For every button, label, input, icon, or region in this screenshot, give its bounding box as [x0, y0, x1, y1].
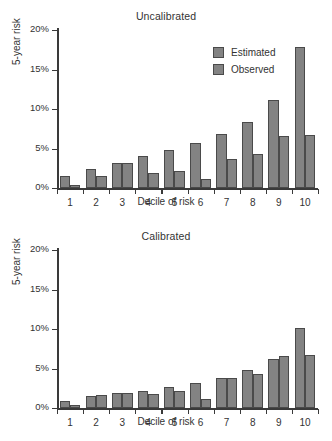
y-axis-tick: 5% [52, 369, 57, 370]
bar [253, 374, 263, 408]
legend-swatch-icon [213, 47, 224, 58]
y-axis-tick: 15% [52, 70, 57, 71]
bar [138, 391, 148, 408]
y-axis-tick: 20% [52, 30, 57, 31]
x-axis-tick [318, 409, 319, 414]
x-axis-tick [161, 189, 162, 194]
legend-item: Observed [213, 61, 275, 78]
bar [148, 394, 158, 408]
x-axis-tick [266, 409, 267, 414]
bar [164, 150, 174, 188]
legend-swatch-icon [213, 64, 224, 75]
bar [216, 134, 226, 188]
y-axis-tick: 15% [52, 290, 57, 291]
y-axis-tick: 10% [52, 329, 57, 330]
bar [122, 163, 132, 188]
bar [295, 328, 305, 408]
y-axis-tick: 20% [52, 250, 57, 251]
bar [279, 356, 289, 408]
x-axis-tick [292, 189, 293, 194]
bar [60, 401, 70, 408]
bar [174, 391, 184, 408]
x-axis-tick [292, 409, 293, 414]
bar [70, 185, 80, 188]
chart-title-calibrated: Calibrated [0, 230, 332, 242]
bar [122, 393, 132, 408]
y-axis-tick: 10% [52, 109, 57, 110]
bar [279, 136, 289, 188]
y-axis-tick-label: 5% [35, 362, 49, 373]
y-axis-tick-label: 10% [30, 102, 49, 113]
bar [305, 355, 315, 408]
bar [138, 156, 148, 188]
bar [190, 143, 200, 188]
bar [96, 395, 106, 408]
y-axis-tick-label: 0% [35, 401, 49, 412]
bar [227, 159, 237, 188]
bar [164, 387, 174, 408]
chart-panel-calibrated: Calibrated 5-year risk 0%5%10%15%20%1234… [0, 220, 332, 440]
y-axis-title-calibrated: 5-year risk [11, 238, 22, 285]
x-axis-tick [57, 409, 58, 414]
bar [112, 163, 122, 188]
y-axis-tick-label: 15% [30, 63, 49, 74]
x-axis-tick [135, 189, 136, 194]
x-axis-tick [135, 409, 136, 414]
legend-uncalibrated: Estimated Observed [213, 44, 275, 78]
x-axis-tick [109, 189, 110, 194]
x-axis-tick [83, 409, 84, 414]
figure-calibration-deciles: Uncalibrated 5-year risk 0%5%10%15%20%12… [0, 0, 332, 441]
bar [70, 405, 80, 408]
y-axis-line [57, 28, 59, 188]
bar [242, 370, 252, 408]
bar [174, 171, 184, 188]
bar [60, 176, 70, 188]
x-axis-tick [109, 409, 110, 414]
legend-label: Observed [231, 64, 274, 75]
plot-area-calibrated: 0%5%10%15%20%12345678910 [57, 250, 318, 408]
bar [190, 383, 200, 408]
y-axis-tick: 5% [52, 149, 57, 150]
bar [201, 399, 211, 408]
bar [201, 179, 211, 188]
legend-item: Estimated [213, 44, 275, 61]
y-axis-tick-label: 5% [35, 142, 49, 153]
chart-title-uncalibrated: Uncalibrated [0, 10, 332, 22]
bar [112, 393, 122, 408]
x-axis-tick [83, 189, 84, 194]
legend-label: Estimated [231, 47, 275, 58]
bar [242, 122, 252, 188]
bar [253, 154, 263, 188]
x-axis-tick [188, 409, 189, 414]
x-axis-tick [240, 189, 241, 194]
x-axis-title-uncalibrated: Decile of risk [0, 196, 332, 207]
y-axis-tick-label: 20% [30, 243, 49, 254]
bar [305, 135, 315, 188]
x-axis-tick [214, 409, 215, 414]
x-axis-tick [318, 189, 319, 194]
bar [86, 396, 96, 408]
bar [148, 173, 158, 188]
y-axis-tick-label: 15% [30, 283, 49, 294]
x-axis-tick [266, 189, 267, 194]
plot-area-uncalibrated: 0%5%10%15%20%12345678910 [57, 30, 318, 188]
chart-panel-uncalibrated: Uncalibrated 5-year risk 0%5%10%15%20%12… [0, 0, 332, 220]
y-axis-tick-label: 0% [35, 181, 49, 192]
y-axis-line [57, 248, 59, 408]
bar [227, 378, 237, 408]
x-axis-tick [161, 409, 162, 414]
y-axis-tick-label: 10% [30, 322, 49, 333]
x-axis-tick [57, 189, 58, 194]
y-axis-title-uncalibrated: 5-year risk [11, 18, 22, 65]
bar [216, 378, 226, 408]
x-axis-tick [214, 189, 215, 194]
bar [86, 169, 96, 188]
bar [295, 47, 305, 188]
bar [268, 100, 278, 188]
x-axis-tick [240, 409, 241, 414]
x-axis-tick [188, 189, 189, 194]
y-axis-tick-label: 20% [30, 23, 49, 34]
x-axis-title-calibrated: Decile of risk [0, 416, 332, 427]
bar [268, 359, 278, 408]
bar [96, 176, 106, 188]
